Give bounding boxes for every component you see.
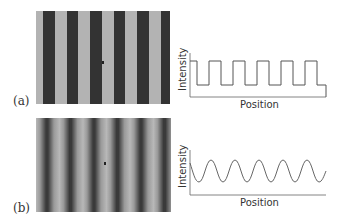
x-axis-label: Position [240, 99, 279, 110]
sine-wave-graph: Intensity Position [177, 144, 326, 208]
intensity-graphs: Intensity Position Intensity Position [0, 0, 340, 223]
square-wave-graph: Intensity Position [177, 47, 326, 110]
x-axis-label: Position [240, 197, 279, 208]
y-axis-label: Intensity [177, 144, 188, 188]
sine-wave-line [190, 160, 326, 182]
square-wave-line [190, 61, 326, 97]
y-axis-label: Intensity [177, 47, 188, 91]
